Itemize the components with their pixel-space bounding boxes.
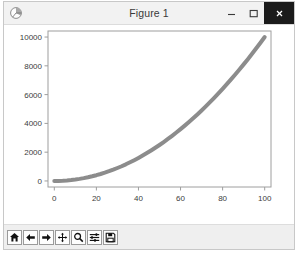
zoom-magnifier-icon[interactable] bbox=[71, 230, 86, 245]
x-axis-ticks: 020406080100 bbox=[52, 187, 272, 203]
y-tick-label: 4000 bbox=[24, 119, 42, 128]
y-tick-label: 2000 bbox=[24, 148, 42, 157]
forward-arrow-icon[interactable] bbox=[39, 230, 54, 245]
y-tick-label: 0 bbox=[38, 177, 43, 186]
axes-frame bbox=[48, 31, 271, 187]
window-controls bbox=[220, 2, 294, 24]
pan-move-icon[interactable] bbox=[55, 230, 70, 245]
figure-window: Figure 1 02040 bbox=[3, 1, 295, 250]
y-tick-label: 10000 bbox=[20, 33, 43, 42]
x-tick-label: 0 bbox=[52, 194, 57, 203]
navigation-toolbar bbox=[4, 224, 294, 249]
figure-canvas[interactable]: 020406080100 0200040006000800010000 bbox=[4, 25, 294, 224]
x-tick-label: 60 bbox=[176, 194, 185, 203]
back-arrow-icon[interactable] bbox=[23, 230, 38, 245]
y-tick-label: 6000 bbox=[24, 91, 42, 100]
plot-area[interactable]: 020406080100 0200040006000800010000 bbox=[4, 25, 294, 224]
matplotlib-icon bbox=[9, 6, 23, 20]
y-tick-label: 8000 bbox=[24, 62, 42, 71]
x-tick-label: 40 bbox=[134, 194, 143, 203]
x-tick-label: 100 bbox=[258, 194, 272, 203]
configure-subplots-icon[interactable] bbox=[87, 230, 102, 245]
y-axis-ticks: 0200040006000800010000 bbox=[20, 33, 48, 186]
x-tick-label: 80 bbox=[218, 194, 227, 203]
home-icon[interactable] bbox=[7, 230, 22, 245]
save-floppy-icon[interactable] bbox=[103, 230, 118, 245]
close-button[interactable] bbox=[264, 2, 294, 24]
title-bar: Figure 1 bbox=[4, 2, 294, 25]
minimize-button[interactable] bbox=[220, 2, 242, 24]
x-tick-label: 20 bbox=[92, 194, 101, 203]
maximize-button[interactable] bbox=[242, 2, 264, 24]
